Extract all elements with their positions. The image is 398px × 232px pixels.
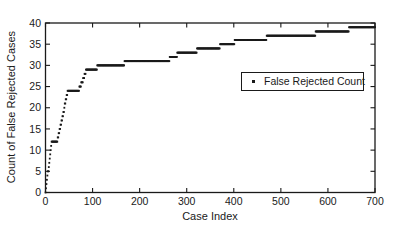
x-axis-title: Case Index <box>182 211 238 222</box>
y-tick-label: 35 <box>29 38 41 50</box>
plot-area: 01002003004005006007000510152025303540 <box>0 0 398 232</box>
legend-entry-label: False Rejected Count <box>264 76 365 87</box>
y-tick-label: 5 <box>35 165 41 177</box>
x-tick-label: 600 <box>319 195 337 207</box>
y-tick-label: 40 <box>29 17 41 29</box>
figure-canvas: 01002003004005006007000510152025303540 C… <box>0 0 398 232</box>
y-axis-tick-labels: 0510152025303540 <box>29 17 41 199</box>
x-tick-label: 300 <box>178 195 196 207</box>
x-tick-label: 500 <box>272 195 290 207</box>
y-axis-title: Count of False Rejected Cases <box>6 31 17 183</box>
x-axis-tick-labels: 0100200300400500600700 <box>43 195 384 207</box>
data-points-false-rejected-count <box>45 26 376 193</box>
x-tick-label: 0 <box>43 195 49 207</box>
x-tick-label: 200 <box>131 195 149 207</box>
x-tick-label: 700 <box>366 195 384 207</box>
y-tick-label: 30 <box>29 59 41 71</box>
legend-box: False Rejected Count <box>241 72 364 91</box>
y-tick-label: 10 <box>29 144 41 156</box>
x-tick-label: 100 <box>84 195 102 207</box>
y-tick-label: 20 <box>29 101 41 113</box>
legend-dot-icon <box>252 80 255 83</box>
x-tick-label: 400 <box>225 195 243 207</box>
y-tick-label: 15 <box>29 123 41 135</box>
y-tick-label: 0 <box>35 186 41 198</box>
y-tick-label: 25 <box>29 80 41 92</box>
